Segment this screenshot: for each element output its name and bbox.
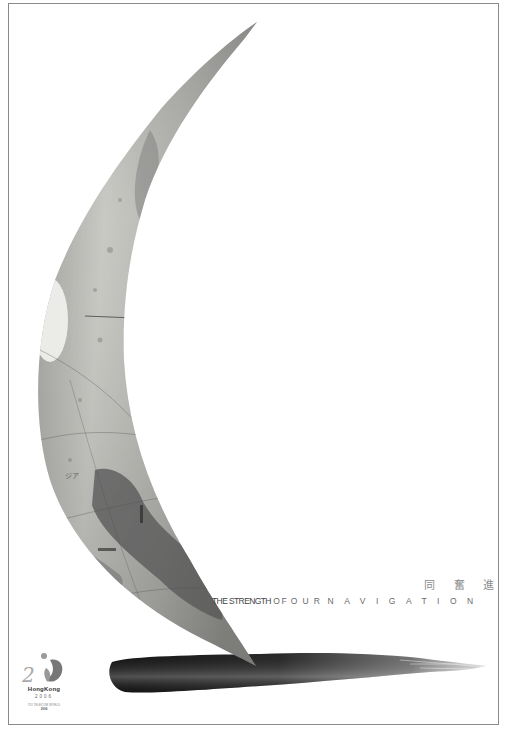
logo-name: HongKong	[20, 686, 68, 692]
globe-crescent: ジア	[0, 0, 508, 729]
ink-brushstroke	[109, 653, 488, 692]
chinese-title: 同 奮 進	[424, 576, 494, 592]
tagline-part-1: THE STRENGTH	[212, 596, 271, 606]
svg-text:ジア: ジア	[65, 472, 79, 479]
logo-year: 2006	[20, 694, 68, 699]
svg-text:2: 2	[21, 663, 35, 687]
tagline: THE STRENGTH OF OUR NAVIGATION	[212, 596, 484, 606]
tagline-part-4: NAVIGATION	[328, 596, 484, 606]
tagline-part-3: OUR	[291, 596, 326, 606]
poster-artwork: ジア 2	[0, 0, 508, 729]
chinese-char-1: 同	[424, 576, 435, 592]
chinese-char-2: 奮	[454, 576, 465, 592]
tagline-part-2: OF	[273, 596, 288, 606]
chinese-char-3: 進	[483, 576, 494, 592]
hongkong-2006-logo-emblem: 2	[21, 653, 62, 687]
logo-subtitle-2: 2006	[20, 707, 68, 711]
